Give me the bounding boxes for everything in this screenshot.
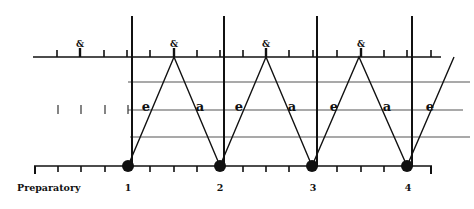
ictus-dot-1 [122,160,134,172]
and-marker: & [76,39,84,49]
ictus-dot-3 [306,160,318,172]
and-marker: & [262,39,270,49]
a-marker: a [196,99,205,114]
and-marker: & [357,39,365,49]
bottom-timeline [34,166,432,174]
e-marker: e [330,99,338,114]
a-marker: a [383,99,392,114]
beat-label-3: 3 [310,182,317,193]
beat-label-4: 4 [405,182,412,193]
and-marker: & [170,39,178,49]
ictus-dot-2 [214,160,226,172]
middle-ticks [58,105,128,114]
beat-labels: Preparatory 1 2 3 4 [17,182,412,193]
ictus-dot-4 [401,160,413,172]
e-marker: e [142,99,150,114]
top-timeline [33,48,441,57]
guide-lines [128,82,470,137]
a-marker: a [288,99,297,114]
and-markers: & & & & [76,39,365,49]
preparatory-label: Preparatory [17,182,81,193]
beat-label-2: 2 [217,182,224,193]
beat-label-1: 1 [125,182,132,193]
e-marker: e [235,99,243,114]
beat-pattern-diagram: & & & & e a e a e a e Preparatory 1 2 3 … [0,0,474,209]
subdivision-markers: e a e a e a e [142,99,434,114]
e-marker: e [426,99,434,114]
